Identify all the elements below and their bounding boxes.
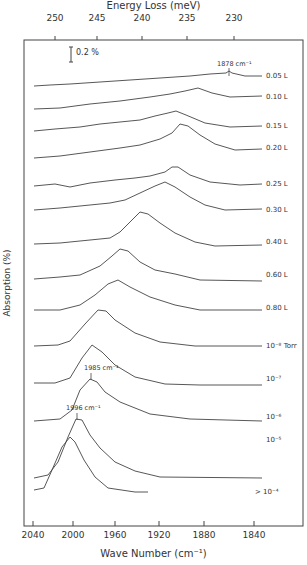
trace-label: 0.25 L	[266, 180, 288, 188]
trace-label: 0.40 L	[266, 238, 288, 246]
peak-label-1996: 1996 cm⁻¹	[66, 404, 101, 412]
peak-label-1985: 1985 cm⁻¹	[84, 364, 119, 372]
trace-label: 0.05 L	[266, 72, 288, 80]
spectra-plot	[0, 0, 307, 565]
trace-label: 0.20 L	[266, 144, 288, 152]
peak-label-1878: 1878 cm⁻¹	[217, 60, 252, 68]
bottom-tick-1840: 1840	[243, 530, 266, 540]
bottom-tick-2000: 2000	[62, 530, 85, 540]
trace-label: 0.80 L	[266, 304, 288, 312]
bottom-tick-2040: 2040	[22, 530, 45, 540]
bottom-tick-1920: 1920	[148, 530, 171, 540]
trace-label: 0.60 L	[266, 271, 288, 279]
trace-label: 0.15 L	[266, 122, 288, 130]
trace-label: 0.10 L	[266, 93, 288, 101]
trace-label: 10⁻⁶	[266, 413, 281, 421]
trace-label: > 10⁻⁴	[255, 488, 279, 496]
trace-label: 10⁻⁸ Torr	[266, 342, 297, 350]
bottom-tick-1960: 1960	[104, 530, 127, 540]
bottom-axis-title: Wave Number (cm⁻¹)	[0, 548, 307, 559]
trace-label: 0.30 L	[266, 206, 288, 214]
y-axis-title: Absorption (%)	[2, 238, 12, 328]
bottom-tick-1880: 1880	[193, 530, 216, 540]
trace-label: 10⁻⁵	[266, 436, 281, 444]
scale-bar-label: 0.2 %	[76, 48, 99, 57]
trace-label: 10⁻⁷	[266, 375, 281, 383]
